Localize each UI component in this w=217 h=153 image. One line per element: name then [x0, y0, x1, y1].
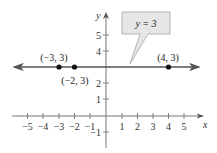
coordinate-plane: −5 −4 −3 −2 −1 1 2 3 4 5 5 4 2 1 −1 x y …: [0, 0, 217, 153]
svg-text:5: 5: [182, 121, 187, 132]
point-neg2-3: [72, 64, 77, 69]
svg-text:2: 2: [96, 78, 101, 89]
svg-text:1: 1: [120, 121, 125, 132]
point-neg3-3: [56, 64, 61, 69]
svg-text:5: 5: [96, 30, 101, 41]
svg-text:1: 1: [96, 94, 101, 105]
svg-text:−1: −1: [90, 127, 101, 138]
point-4-3: [166, 64, 171, 69]
point-label-4-3: (4, 3): [157, 52, 179, 64]
point-label-neg2-3: (−2, 3): [61, 75, 88, 87]
y-axis-label: y: [95, 10, 101, 21]
svg-text:2: 2: [135, 121, 140, 132]
svg-text:−2: −2: [69, 121, 80, 132]
svg-text:3: 3: [151, 121, 156, 132]
svg-text:−3: −3: [54, 121, 65, 132]
point-label-neg3-3: (−3, 3): [40, 52, 67, 64]
svg-text:−5: −5: [22, 121, 33, 132]
x-tick-labels: −5 −4 −3 −2 −1 1 2 3 4 5: [22, 121, 186, 132]
svg-text:y = 3: y = 3: [134, 18, 156, 29]
svg-text:4: 4: [96, 46, 101, 57]
x-axis-label: x: [202, 119, 208, 130]
svg-text:4: 4: [166, 121, 171, 132]
svg-text:−4: −4: [38, 121, 49, 132]
